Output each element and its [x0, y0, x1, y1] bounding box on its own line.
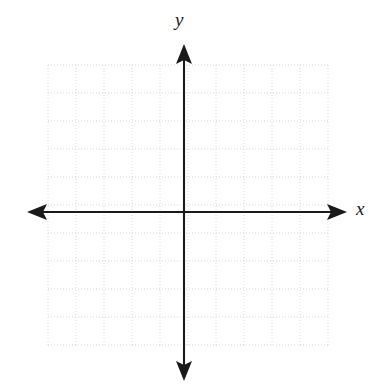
- y-axis-label: y: [175, 10, 183, 29]
- grid-lines: [48, 65, 328, 345]
- coordinate-plane-canvas: [0, 0, 384, 387]
- axes: [32, 50, 342, 375]
- coordinate-plane-figure: y x: [0, 0, 384, 387]
- x-axis-label: x: [356, 199, 364, 218]
